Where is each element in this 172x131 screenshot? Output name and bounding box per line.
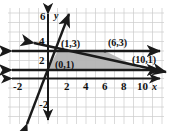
- y-tick-label-4: 4: [39, 36, 45, 47]
- point-label-0-1: (0,1): [55, 60, 74, 70]
- x-tick-label-negative-2: -2: [13, 81, 22, 92]
- point-label-6-3: (6,3): [108, 38, 127, 48]
- point-label-1-3: (1,3): [61, 39, 80, 49]
- x-tick-label-4: 4: [83, 81, 89, 92]
- y-tick-label-6: 6: [40, 11, 46, 22]
- x-axis-name: x: [152, 82, 157, 92]
- y-tick-label-negative-2: -2: [39, 99, 48, 110]
- graph-figure: 6 4 2 -2 y -2 2 4 6 8 10 x (1,3) (6,3) (…: [0, 0, 172, 131]
- x-tick-label-8: 8: [121, 81, 127, 92]
- vertex-point-6-3: [103, 49, 106, 52]
- y-tick-label-2: 2: [39, 55, 45, 66]
- coordinate-plane-svg: [0, 0, 172, 131]
- x-tick-label-10: 10: [137, 81, 148, 92]
- y-axis-name: y: [54, 11, 58, 21]
- x-tick-label-6: 6: [102, 81, 108, 92]
- x-tick-label-2: 2: [64, 81, 70, 92]
- point-label-10-1: (10,1): [132, 55, 156, 65]
